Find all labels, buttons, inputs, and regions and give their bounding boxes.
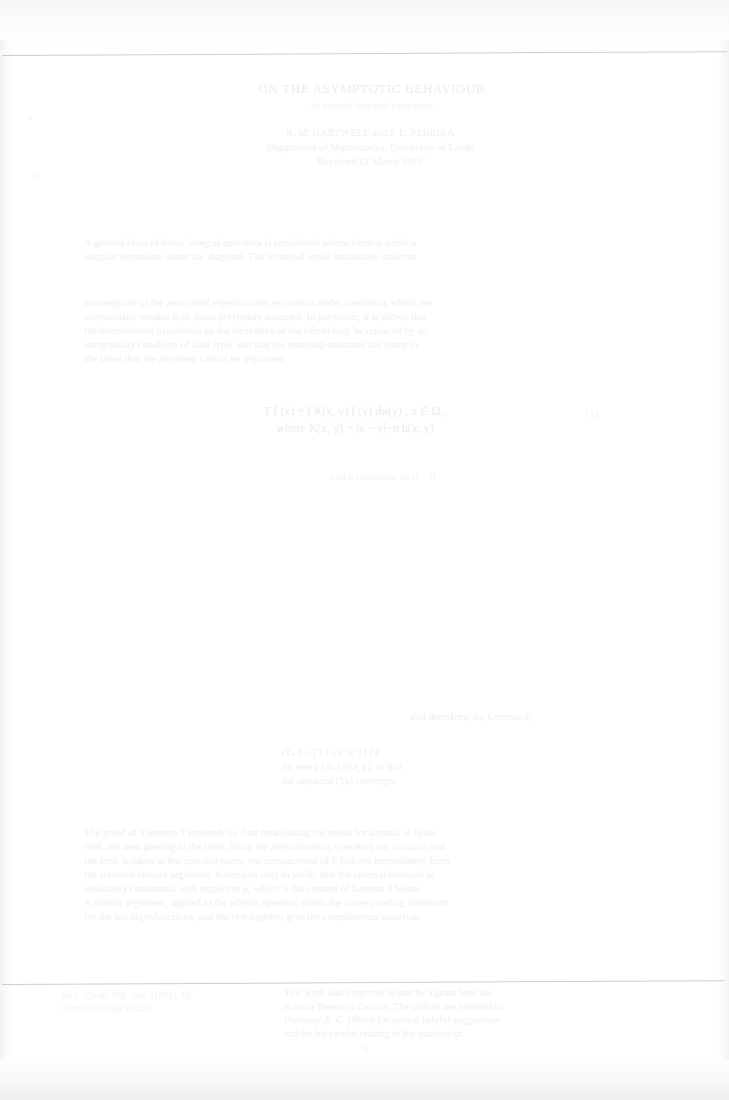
subtitle-text: of certain integral operators [262, 100, 482, 111]
paragraph-line: convergence of the associated eigenfunct… [84, 298, 642, 309]
footer-line: Science Research Council. The authors ar… [284, 1002, 664, 1012]
paragraph-line: A general class of linear integral opera… [84, 238, 642, 249]
page-number: 4 [340, 1044, 390, 1054]
page-gutter-right [716, 40, 729, 1060]
received-date: Received 12 March 1971 [150, 157, 590, 168]
paragraph-line: The proof of Theorem 1 proceeds by first… [84, 828, 644, 839]
display-equation: T f (x) = ∫ K(x, y) f (y) dμ(y) , x ∈ Ω … [140, 405, 570, 439]
header-rule [2, 51, 727, 56]
paragraph-line: rank and then passing to the limit. Sinc… [84, 842, 644, 853]
scan-speck-artifact [29, 117, 31, 119]
equation-condition: where K(x, y) = |x − y|−α h(x, y) [140, 422, 570, 434]
footer-journal-note: Proc. Camb. Phil. Soc. (1971), 70 Printe… [62, 992, 272, 1017]
paragraph-body: convergence of the associated eigenfunct… [84, 298, 642, 368]
paragraph-line: absolutely continuous with respect to μ,… [84, 884, 644, 895]
paragraph-abstract: A general class of linear integral opera… [84, 238, 642, 266]
paragraph-line: the limit is taken in the operator norm,… [84, 856, 644, 867]
scan-edge-shadow-bottom [0, 1054, 729, 1100]
author-names: R. M. HARTWELL and J. L. PEREIRA [150, 128, 590, 139]
paragraph-line: the boundedness hypothesis on the deriva… [84, 326, 642, 337]
page-title: ON THE ASYMPTOTIC BEHAVIOUR [242, 82, 502, 95]
paragraph-line: integrability condition of Dini type, an… [84, 340, 642, 351]
paragraph-line: for the left eigenfunctions, and the two… [84, 912, 644, 923]
paragraph-line: the standard closure argument. It remain… [84, 870, 644, 881]
paragraph-proof: The proof of Theorem 1 proceeds by first… [84, 828, 644, 926]
equation-body: T f (x) = ∫ K(x, y) f (y) dμ(y) , x ∈ Ω … [140, 405, 570, 417]
affiliation: Department of Mathematics, University of… [150, 143, 590, 154]
paragraph-line: the sense that the exponent cannot be im… [84, 354, 642, 365]
paragraph-line: A similar argument, applied to the adjoi… [84, 898, 644, 909]
page-subtitle: of certain integral operators [262, 100, 482, 111]
scan-speck-artifact [33, 175, 36, 177]
scanned-page: ON THE ASYMPTOTIC BEHAVIOUR of certain i… [0, 0, 729, 1100]
footer-rule [2, 980, 724, 985]
indented-derivation: ‖Tₙ f − T f ‖ ≤ C n⁻¹ ‖ f ‖ for every f … [282, 748, 612, 790]
footer-line: Proc. Camb. Phil. Soc. (1971), 70 [62, 992, 272, 1002]
footer-line: This work was supported in part by a gra… [284, 988, 664, 998]
footer-line: Printed in Great Britain [62, 1005, 272, 1015]
equation-caption: with h continuous on Ω × Ω . [300, 472, 470, 482]
title-main-text: ON THE ASYMPTOTIC BEHAVIOUR [242, 82, 502, 95]
derivation-line: for every f in L²(Ω, μ), so that [282, 762, 612, 772]
section-heading: and therefore, by Lemma 2, [410, 710, 670, 722]
footer-acknowledgement: This work was supported in part by a gra… [284, 988, 664, 1042]
equation-number: (1) [586, 408, 598, 419]
derivation-line: the sequence (Tₙ) converges. [282, 776, 612, 786]
author-block: R. M. HARTWELL and J. L. PEREIRA Departm… [150, 128, 590, 172]
footer-line: and for his careful reading of the manus… [284, 1029, 664, 1039]
derivation-line: ‖Tₙ f − T f ‖ ≤ C n⁻¹ ‖ f ‖ [282, 748, 612, 758]
page-gutter-left [0, 40, 13, 1060]
scan-edge-shadow-top [0, 0, 729, 52]
paragraph-line: substantially weaker than those previous… [84, 312, 642, 323]
footer-line: Professor A. C. Offord for several helpf… [284, 1015, 664, 1025]
paragraph-line: singular expansion about the diagonal. T… [84, 252, 642, 263]
